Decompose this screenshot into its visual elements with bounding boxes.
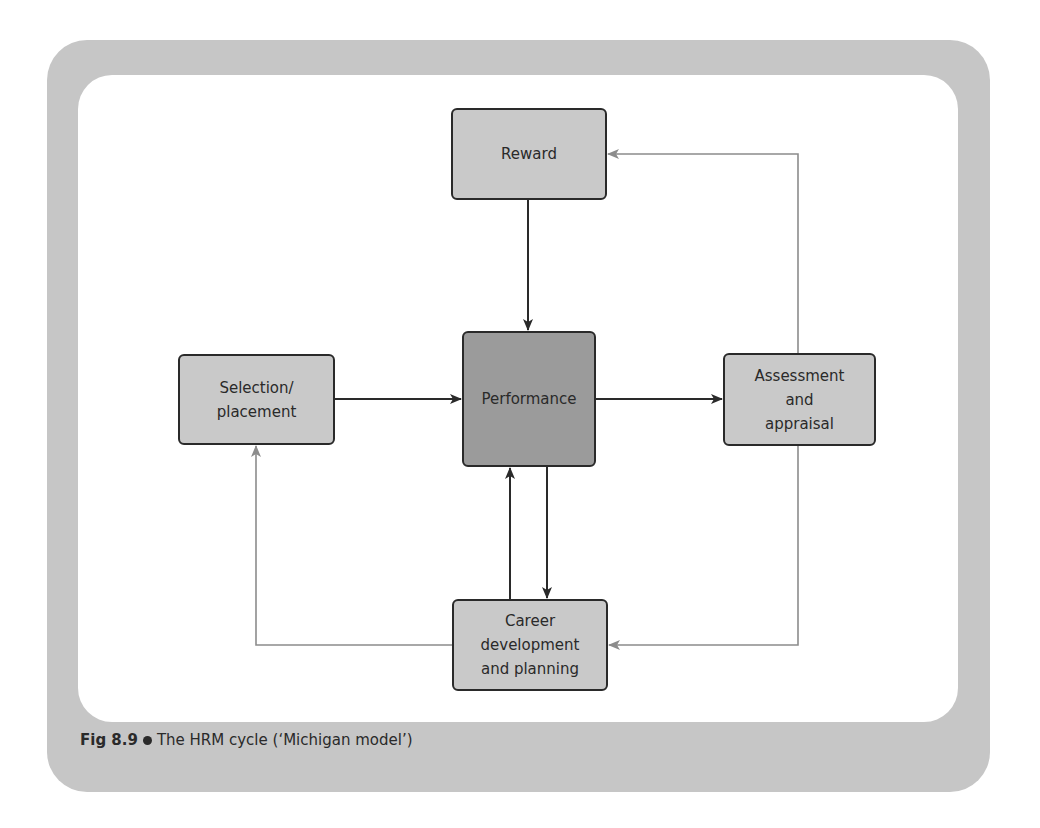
arrow-assessment-to-reward [608, 154, 798, 353]
caption-text: The HRM cycle (‘Michigan model’) [157, 731, 413, 749]
node-selection-placement: Selection/ placement [178, 354, 335, 445]
arrow-career-to-selection [256, 446, 452, 645]
node-career-development: Career development and planning [452, 599, 608, 691]
node-reward: Reward [451, 108, 607, 200]
caption-label: Fig 8.9 [80, 731, 138, 749]
node-performance: Performance [462, 331, 596, 467]
arrow-assessment-to-career [609, 445, 798, 645]
node-assessment-appraisal: Assessment and appraisal [723, 353, 876, 446]
figure-caption: Fig 8.9The HRM cycle (‘Michigan model’) [80, 731, 413, 749]
bullet-icon [143, 736, 152, 745]
